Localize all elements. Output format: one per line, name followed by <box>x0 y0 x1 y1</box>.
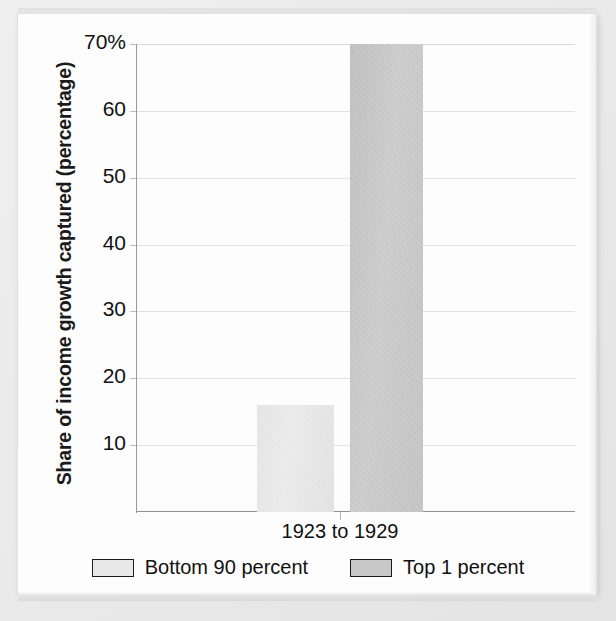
legend-item-top-1[interactable]: Top 1 percent <box>350 556 524 579</box>
y-axis-tick-labels: 10203040506070% <box>0 0 126 621</box>
legend-swatch-top-1 <box>350 559 392 577</box>
y-tick-label-10: 10 <box>6 431 126 455</box>
x-axis-tick-mark <box>340 512 341 520</box>
legend-label-top-1: Top 1 percent <box>403 556 524 579</box>
y-tick-label-20: 20 <box>6 364 126 388</box>
legend-label-bottom-90: Bottom 90 percent <box>145 556 308 579</box>
y-tick-label-70: 70% <box>6 30 126 54</box>
y-tick-label-30: 30 <box>6 297 126 321</box>
chart-legend: Bottom 90 percent Top 1 percent <box>0 556 616 579</box>
y-tick-label-50: 50 <box>6 164 126 188</box>
plot-area <box>137 44 575 512</box>
y-tick-label-60: 60 <box>6 97 126 121</box>
bar-top-1-percent <box>350 44 423 512</box>
bar-chart-figure: Share of income growth captured (percent… <box>0 0 616 621</box>
y-tick-label-40: 40 <box>6 231 126 255</box>
bar-bottom-90-percent <box>257 405 334 512</box>
legend-swatch-bottom-90 <box>92 559 134 577</box>
legend-item-bottom-90[interactable]: Bottom 90 percent <box>92 556 308 579</box>
x-axis-category-label: 1923 to 1929 <box>200 520 480 543</box>
